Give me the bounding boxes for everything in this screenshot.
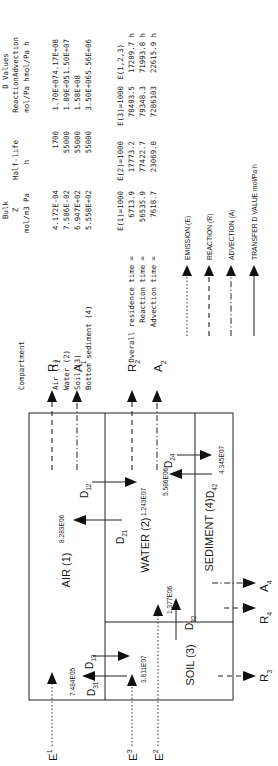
time-value: 22615.9 h xyxy=(149,33,158,73)
r3-label: R3 xyxy=(258,670,273,682)
time-label: Reaction time = xyxy=(138,255,147,322)
emission-e2: E2 xyxy=(152,604,165,761)
time-value: 7286103 xyxy=(149,86,158,117)
arrowhead-icon xyxy=(47,672,57,684)
transfer-d31: D31 7.484E05 xyxy=(69,667,127,696)
legend-label: EMISSION (E) xyxy=(184,216,192,260)
arrowhead-icon xyxy=(82,671,95,681)
reaction-r4: R4 xyxy=(224,603,273,624)
time-value: 71993.8 h xyxy=(138,33,147,73)
legend-item-reaction: REACTION (R) xyxy=(204,214,214,336)
row-half-life: 55000 xyxy=(62,131,71,153)
compartment-sediment: SEDIMENT (4) xyxy=(203,498,215,571)
row-z: 5.558E+02 xyxy=(84,190,93,230)
d21-value: 8.283E06 xyxy=(58,514,65,543)
row-advection: 1.50E+07 xyxy=(62,39,71,75)
compartment-diagram: AIR (1) WATER (2) SEDIMENT (4) SOIL (3) … xyxy=(29,360,273,761)
d24-label: D24 xyxy=(163,453,176,468)
arrowhead-icon xyxy=(204,265,214,276)
arrowhead-icon xyxy=(243,671,256,681)
row-half-life: 55000 xyxy=(84,131,93,153)
reaction-r3: R3 xyxy=(218,670,273,682)
legend-item-emission: EMISSION (E) xyxy=(182,216,192,336)
property-table: Compartment Bulk Z mol/m3 Pa Half-life h… xyxy=(1,37,93,390)
arrowhead-icon xyxy=(125,477,137,487)
legend-label: TRANSFER D VALUE mol/Pa h xyxy=(251,164,258,260)
d13-value: 3.811E07 xyxy=(140,655,147,683)
legend-label: REACTION (R) xyxy=(206,214,214,260)
arrowhead-icon xyxy=(200,450,212,460)
row-half-life: 55000 xyxy=(73,131,82,153)
d31-value: 7.484E05 xyxy=(69,667,76,696)
a4-label: A4 xyxy=(258,580,273,592)
table-row: Air (1) 4.172E-04 1700 1.70E+07 4.17E+08 xyxy=(51,39,60,390)
row-advection: 5.56E+06 xyxy=(84,39,93,75)
d12-label: D12 xyxy=(79,483,92,498)
header-z-units: mol/m3 Pa xyxy=(22,193,31,233)
emission-e1: E1 xyxy=(46,672,59,761)
header-advection-units: mol/Pa h xyxy=(22,41,31,77)
d42-value: 5.586E06 xyxy=(162,467,169,496)
col-e2: E(2)=1000 xyxy=(116,141,125,181)
header-reaction: Reaction xyxy=(11,77,20,113)
legend-item-advection: ADVECTION (A) xyxy=(226,209,236,336)
row-advection: 4.17E+08 xyxy=(51,39,60,75)
time-label: Overall residence time = xyxy=(127,255,136,362)
time-value: 78493.5 xyxy=(127,86,136,117)
arrowhead-icon xyxy=(72,390,82,402)
d42-label: D42 xyxy=(205,483,218,498)
residence-times-table: E(1)=1000 E(2)=1000 E(3)=1000 E(1,2,3) O… xyxy=(116,33,158,363)
time-row: Reaction time = 56535.9 77422.7 79348.3 … xyxy=(138,33,147,323)
time-value: 7618.7 xyxy=(149,191,158,218)
time-value: 17209.7 h xyxy=(127,33,136,73)
transfer-d21: D21 8.283E06 xyxy=(58,514,128,544)
row-z: 6.947E+02 xyxy=(73,190,82,230)
a2-label: A2 xyxy=(152,360,167,372)
compartment-air: AIR (1) xyxy=(60,553,72,588)
d32-label: D32 xyxy=(184,615,197,630)
advection-a2: A2 xyxy=(152,360,167,470)
header-half-life: Half-life xyxy=(11,139,20,180)
header-reaction-units: mol/Pa h xyxy=(22,77,31,113)
r4-label: R4 xyxy=(258,612,273,624)
transfer-d12: D12 1.243E07 xyxy=(79,477,147,516)
header-advection: Advection xyxy=(11,37,20,77)
advection-a4: A4 xyxy=(212,578,273,592)
header-z: Z xyxy=(11,207,20,212)
e3-label: E3 xyxy=(126,749,139,761)
e2-label: E2 xyxy=(152,749,165,761)
arrowhead-icon xyxy=(243,578,256,588)
transfer-d42: D42 5.586E06 xyxy=(162,467,218,498)
header-compartment: Compartment xyxy=(17,341,26,390)
time-value: 6713.9 xyxy=(127,191,136,218)
compartment-soil: SOIL (3) xyxy=(184,644,196,685)
time-value: 17773.2 xyxy=(127,141,136,172)
time-label: Advection time = xyxy=(149,255,158,327)
legend: EMISSION (E) REACTION (R) ADVECTION (A) … xyxy=(182,164,259,336)
table-row: Soil (3) 6.947E+02 55000 1.58E+08 xyxy=(73,75,82,390)
d32-value: 1.377E06 xyxy=(166,585,173,614)
time-row: Advection time = 7618.7 23069.0 7286103 … xyxy=(149,33,158,327)
arrowhead-icon xyxy=(152,390,162,402)
row-reaction: 3.50E+06 xyxy=(84,75,93,111)
arrowhead-icon xyxy=(118,651,130,661)
arrowhead-icon xyxy=(249,265,259,276)
arrowhead-icon xyxy=(226,265,236,276)
row-z: 4.172E-04 xyxy=(51,189,60,230)
fugacity-model-figure: Compartment Bulk Z mol/m3 Pa Half-life h… xyxy=(0,0,278,766)
time-value: 23069.0 xyxy=(149,141,158,172)
d31-label: D31 xyxy=(86,681,99,696)
row-reaction: 1.89E+05 xyxy=(62,75,71,111)
header-half-life-units: h xyxy=(22,160,31,164)
arrowhead-icon xyxy=(127,674,137,686)
row-z: 7.506E-02 xyxy=(62,190,71,230)
arrowhead-icon xyxy=(73,515,86,525)
arrowhead-icon xyxy=(243,603,256,613)
reaction-r2: R2 xyxy=(126,360,141,470)
e1-label: E1 xyxy=(46,749,59,761)
col-e1: E(1)=1000 xyxy=(116,191,125,231)
header-d-values: D Values xyxy=(1,53,10,89)
d21-label: D21 xyxy=(115,529,128,544)
time-row: Overall residence time = 6713.9 17773.2 … xyxy=(127,33,136,363)
arrowhead-icon xyxy=(47,390,57,402)
